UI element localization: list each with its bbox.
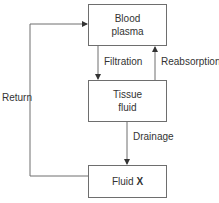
label-filtration: Filtration bbox=[104, 56, 142, 67]
node-blood-plasma-line2: plasma bbox=[111, 25, 143, 38]
node-tissue-fluid-line1: Tissue bbox=[113, 88, 142, 101]
node-tissue-fluid: Tissue fluid bbox=[88, 80, 167, 122]
label-drainage: Drainage bbox=[133, 131, 174, 142]
node-fluid-x: Fluid X bbox=[88, 165, 167, 198]
return-arrow bbox=[30, 24, 88, 176]
node-blood-plasma-line1: Blood bbox=[111, 12, 143, 25]
label-reabsorption: Reabsorption bbox=[161, 56, 219, 67]
node-blood-plasma: Blood plasma bbox=[88, 4, 167, 46]
node-fluid-x-prefix: Fluid bbox=[112, 176, 136, 187]
label-return: Return bbox=[2, 92, 32, 103]
node-fluid-x-letter: X bbox=[136, 176, 143, 187]
node-tissue-fluid-line2: fluid bbox=[113, 101, 142, 114]
